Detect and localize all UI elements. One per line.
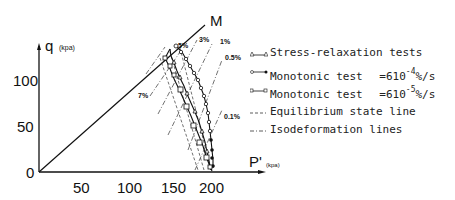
m-line-label: M: [210, 12, 223, 29]
legend: Stress-relaxation tests Monotonic test =…: [270, 44, 435, 140]
x-tick-100: 100: [117, 179, 142, 196]
series-monotonic-slow: [163, 49, 212, 171]
y-axis-arrow-icon: [37, 43, 41, 50]
iso-label-7: 7%: [138, 92, 149, 99]
legend-item-monotonic-slow: Monotonic test =610-5%/s: [270, 81, 435, 100]
iso-label-0-5: 0.5%: [225, 54, 242, 61]
iso-label-0-1: 0.1%: [224, 113, 241, 120]
x-axis-label: P': [249, 153, 262, 170]
x-axis-arrow-icon: [258, 170, 266, 174]
x-tick-150: 150: [161, 179, 186, 196]
legend-item-equilibrium-line: Equilibrium state line: [270, 103, 435, 122]
legend-item-stress-relaxation: Stress-relaxation tests: [270, 44, 435, 63]
origin-label: 0: [26, 164, 34, 181]
iso-label-1: 1%: [220, 38, 231, 45]
circle-marker-icon: [250, 67, 268, 77]
x-tick-50: 50: [73, 179, 90, 196]
square-marker-icon: [250, 85, 268, 95]
dash-dot-line-icon: [250, 125, 268, 135]
legend-item-isodeformation-lines: Isodeformation lines: [270, 121, 435, 140]
x-tick-200: 200: [199, 179, 224, 196]
iso-label-3: 3%: [199, 36, 210, 43]
x-axis-unit: (kpa): [266, 162, 280, 168]
y-tick-50: 50: [17, 118, 34, 135]
y-axis-label: q: [45, 37, 53, 54]
y-axis-unit: (kpa): [59, 44, 75, 52]
dashed-line-icon: [250, 107, 268, 117]
legend-item-monotonic-fast: Monotonic test =610-4%/s: [270, 63, 435, 82]
iso-label-5: 5%: [178, 42, 189, 49]
triangle-marker-icon: [250, 48, 268, 58]
y-tick-100: 100: [13, 72, 38, 89]
